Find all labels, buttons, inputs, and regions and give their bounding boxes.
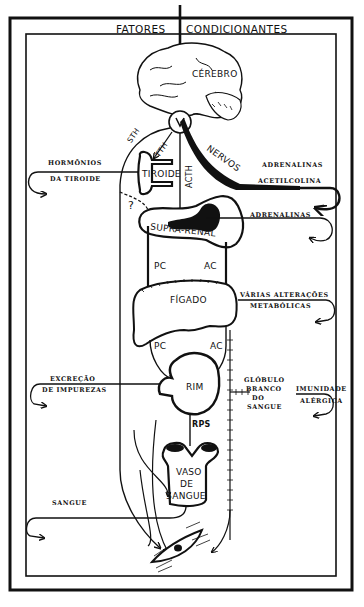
metabolic-1: VÁRIAS ALTERAÇÕES (240, 292, 329, 298)
rps-label: RPS (192, 421, 211, 429)
liver-label: FÍGADO (170, 296, 207, 305)
liver-icon (133, 279, 236, 346)
metabolic-2: METABÓLICAS (250, 303, 311, 309)
white-cell-2: BRANCO (246, 386, 282, 392)
pc-lower-label: PC (154, 342, 166, 351)
white-cell-1: GLÓBULO (244, 377, 285, 383)
white-cell-4: SANGUE (247, 404, 282, 410)
adrenalines-nerves: ADRENALINAS (262, 162, 323, 168)
brain-icon (138, 43, 242, 120)
brain-label: CÉREBRO (192, 70, 238, 79)
ac-upper-label: AC (204, 262, 217, 271)
vessel-label-1: VASO (176, 468, 202, 477)
blood-label: SANGUE (52, 500, 87, 506)
immunity-2: ALÉRGICA (300, 398, 343, 404)
white-cell-3: DO (252, 395, 264, 401)
acetylcholine: ACETILCOLINA (258, 178, 321, 184)
target-cell-icon (152, 522, 210, 572)
thyroid-hormones-2: DA TIROIDE (50, 176, 101, 182)
excretion-2: DE IMPUREZAS (42, 387, 107, 393)
pc-upper-label: PC (154, 262, 166, 271)
vessel-label-3: SANGUE (166, 492, 206, 501)
title-left: FATORES (116, 24, 166, 35)
thyroid-label: TIROIDE (142, 170, 181, 179)
question-mark: ? (128, 200, 134, 211)
ac-lower-label: AC (210, 342, 223, 351)
acth-label: ACTH (186, 165, 194, 188)
excretion-1: EXCREÇÃO (50, 376, 95, 382)
kidney-label: RIM (186, 383, 204, 392)
title-right: CONDICIONANTES (186, 24, 288, 35)
thyroid-hormones-1: HORMÔNIOS (48, 160, 102, 166)
immunity-1: IMUNIDADE (296, 386, 347, 392)
adrenalines-adrenal: ADRENALINAS (250, 212, 311, 218)
vessel-label-2: DE (180, 480, 193, 489)
